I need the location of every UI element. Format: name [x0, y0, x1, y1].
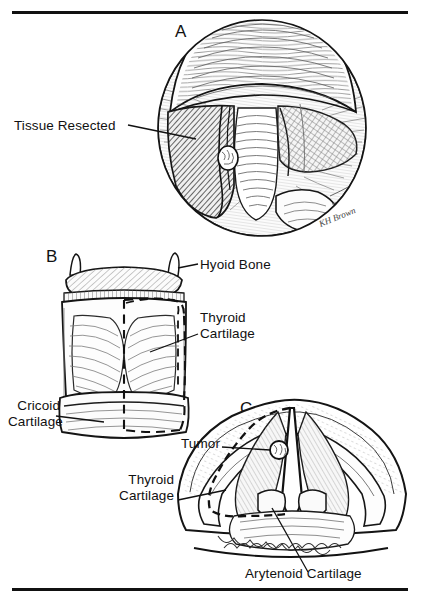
label-tumor: Tumor	[178, 436, 220, 452]
panel-c: C	[160, 390, 421, 590]
figure-plate: A	[0, 0, 421, 602]
tumor-nodule-panel-a	[218, 146, 238, 170]
tumor-nodule-panel-c	[270, 441, 288, 459]
label-tissue-resected: Tissue Resected	[14, 118, 116, 134]
leader-line-hyoid-bone	[178, 264, 198, 268]
label-arytenoid-cartilage: Arytenoid Cartilage	[245, 566, 362, 582]
label-hyoid-bone: Hyoid Bone	[200, 257, 271, 273]
panel-c-artwork	[160, 390, 421, 590]
label-cricoid-cartilage: Cricoid Cartilage	[8, 398, 60, 429]
label-thyroid-cartilage-b: Thyroid Cartilage	[200, 310, 255, 341]
panel-a: A	[0, 0, 421, 245]
label-thyroid-cartilage-c: Thyroid Cartilage	[98, 472, 174, 503]
